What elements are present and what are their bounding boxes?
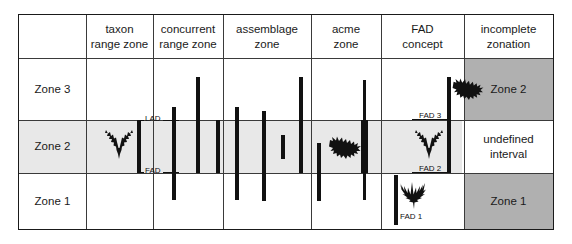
fossil-v-taxon-range — [104, 128, 134, 162]
header-concurrent-range-zone-line2: range zone — [159, 37, 217, 51]
fad2-leader — [412, 172, 447, 173]
header-incomplete-zonation-line1: incomplete — [481, 22, 537, 36]
right-label-undefined-interval: undefined interval — [464, 120, 553, 173]
right-label-undefined-line2: interval — [490, 148, 527, 160]
fad-label: FAD — [145, 167, 161, 175]
header-taxon-range-zone-line2: range zone — [91, 37, 149, 51]
concurrent-range-bar-2 — [196, 77, 200, 173]
header-assemblage-zone-line2: zone — [236, 37, 298, 51]
fossil-spiky-fad3 — [451, 76, 485, 101]
header-concurrent-range-zone: concurrent range zone — [153, 15, 223, 58]
fossil-star-fad1 — [397, 179, 431, 211]
header-fad-concept-line2: concept — [402, 37, 442, 51]
header-fad-concept: FAD concept — [381, 15, 464, 58]
header-taxon-range-zone: taxon range zone — [86, 15, 153, 58]
header-assemblage-zone: assemblage zone — [223, 15, 311, 58]
fad-tick — [137, 172, 144, 173]
header-taxon-range-zone-line1: taxon — [91, 22, 149, 36]
assemblage-bar-5 — [317, 143, 321, 201]
fad2-bar — [447, 120, 451, 173]
assemblage-bar-3 — [281, 135, 285, 159]
header-corner — [19, 15, 86, 58]
lad-label: LAD — [145, 115, 161, 123]
zonation-table: taxon range zone concurrent range zone a… — [18, 14, 554, 230]
left-label-zone1: Zone 1 — [19, 173, 86, 229]
assemblage-bar-2 — [262, 111, 266, 201]
fad3-leader — [412, 119, 447, 120]
fad-leader — [163, 172, 179, 173]
lad-leader — [163, 120, 179, 121]
header-acme-zone: acme zone — [311, 15, 381, 58]
right-label-zone1: Zone 1 — [464, 173, 553, 229]
left-label-zone2: Zone 2 — [19, 120, 86, 173]
header-fad-concept-line1: FAD — [402, 22, 442, 36]
header-incomplete-zonation-line2: zonation — [481, 37, 537, 51]
fad1-label: FAD 1 — [400, 213, 422, 221]
taxon-range-bar — [137, 120, 141, 173]
assemblage-bar-4 — [299, 77, 303, 173]
header-concurrent-range-zone-line1: concurrent — [159, 22, 217, 36]
header-acme-zone-line1: acme — [332, 22, 360, 36]
biostratigraphy-figure: taxon range zone concurrent range zone a… — [0, 0, 572, 244]
fossil-spiky-acme — [328, 134, 362, 160]
header-acme-zone-line2: zone — [332, 37, 360, 51]
header-assemblage-zone-line1: assemblage — [236, 22, 298, 36]
header-incomplete-zonation: incomplete zonation — [464, 15, 553, 58]
concurrent-range-bar-1 — [172, 107, 176, 200]
right-label-undefined-line1: undefined — [483, 133, 534, 145]
lad-tick — [137, 120, 144, 121]
fossil-v-fad2 — [414, 128, 444, 162]
assemblage-bar-1 — [235, 107, 239, 200]
fad3-bar — [447, 77, 451, 120]
left-label-zone3: Zone 3 — [19, 58, 86, 120]
concurrent-range-bar-3 — [216, 120, 220, 173]
